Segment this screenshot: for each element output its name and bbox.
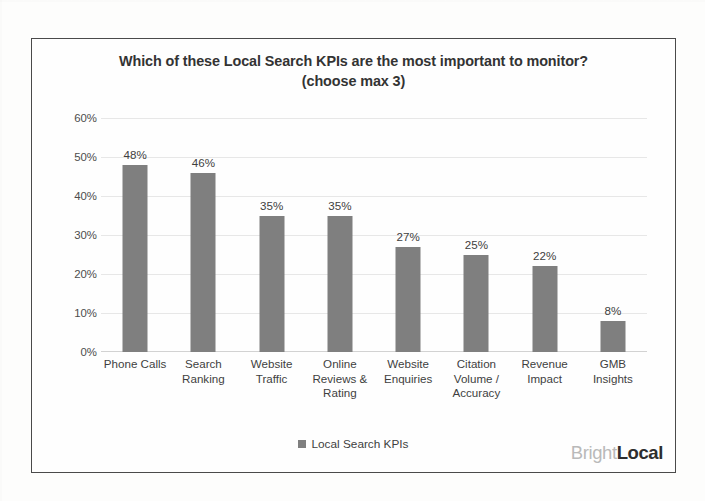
chart-title: Which of these Local Search KPIs are the… — [32, 52, 675, 71]
x-axis-category-label-line: Reviews & — [303, 372, 377, 387]
bar-value-label: 48% — [124, 148, 147, 161]
y-axis-tick-label: 40% — [74, 190, 97, 202]
x-axis-category-label: CitationVolume /Accuracy — [439, 357, 513, 401]
brand-bright-text: Bright — [571, 442, 617, 463]
bar-slot: 46% — [169, 118, 237, 352]
x-axis-category-label-line: Online — [303, 357, 377, 372]
x-axis-category-label-line: Ranking — [166, 372, 240, 387]
bar[interactable] — [191, 173, 216, 352]
x-axis-category-label-line: Citation — [439, 357, 513, 372]
bar[interactable] — [532, 266, 557, 352]
bar-slot: 35% — [238, 118, 306, 352]
x-axis-category-label: RevenueImpact — [508, 357, 582, 386]
brightlocal-logo: BrightLocal — [571, 442, 663, 464]
brand-local-text: Local — [617, 442, 663, 463]
bar[interactable] — [464, 255, 489, 353]
x-axis-category-label: WebsiteTraffic — [235, 357, 309, 386]
bar-slot: 22% — [511, 118, 579, 352]
x-axis-category-label-line: Accuracy — [439, 386, 513, 401]
bar-value-label: 22% — [533, 249, 556, 262]
x-axis-category-label-line: Revenue — [508, 357, 582, 372]
x-axis-category-label-line: Enquiries — [371, 372, 445, 387]
y-axis-tick-label: 0% — [81, 346, 97, 358]
bar-series-local-search-kpis: 48%46%35%35%27%25%22%8% — [101, 118, 647, 352]
bar-value-label: 25% — [465, 238, 488, 251]
x-axis-category-label-line: GMB — [576, 357, 650, 372]
x-axis-category-label-line: Search — [166, 357, 240, 372]
bar-slot: 27% — [374, 118, 442, 352]
legend-swatch-icon — [298, 440, 306, 448]
legend-entry-label: Local Search KPIs — [311, 437, 408, 451]
chart-subtitle: (choose max 3) — [32, 71, 675, 91]
bar-slot: 35% — [306, 118, 374, 352]
x-axis-category-label-line: Rating — [303, 386, 377, 401]
chart-title-block: Which of these Local Search KPIs are the… — [32, 52, 675, 91]
x-axis-category-label-line: Volume / — [439, 372, 513, 387]
y-axis-tick-label: 50% — [74, 151, 97, 163]
bar-slot: 8% — [579, 118, 647, 352]
bar[interactable] — [396, 247, 421, 352]
x-axis-category-label: SearchRanking — [166, 357, 240, 386]
x-axis-category-label-line: Impact — [508, 372, 582, 387]
x-axis-category-label: GMBInsights — [576, 357, 650, 386]
chart-container: Which of these Local Search KPIs are the… — [31, 38, 676, 473]
x-axis-category-label-line: Traffic — [235, 372, 309, 387]
x-axis-category-label: Phone Calls — [98, 357, 172, 372]
x-axis-category-label-line: Phone Calls — [98, 357, 172, 372]
x-axis-category-label-line: Website — [235, 357, 309, 372]
x-axis-category-label-line: Website — [371, 357, 445, 372]
x-axis-category-label-line: Insights — [576, 372, 650, 387]
bar-value-label: 27% — [397, 230, 420, 243]
bar-value-label: 35% — [328, 199, 351, 212]
y-axis-tick-labels: 0%10%20%30%40%50%60% — [61, 118, 97, 352]
bar-value-label: 46% — [192, 156, 215, 169]
x-axis-category-label: WebsiteEnquiries — [371, 357, 445, 386]
y-axis-tick-label: 30% — [74, 229, 97, 241]
x-axis-category-label: OnlineReviews &Rating — [303, 357, 377, 401]
bar-value-label: 8% — [604, 304, 621, 317]
y-axis-tick-label: 20% — [74, 268, 97, 280]
bar[interactable] — [259, 216, 284, 353]
bar[interactable] — [600, 321, 625, 352]
bar-slot: 48% — [101, 118, 169, 352]
bar-slot: 25% — [442, 118, 510, 352]
bar-value-label: 35% — [260, 199, 283, 212]
x-axis-category-labels: Phone CallsSearchRankingWebsiteTrafficOn… — [101, 357, 647, 419]
y-axis-tick-label: 10% — [74, 307, 97, 319]
bar[interactable] — [123, 165, 148, 352]
bar[interactable] — [327, 216, 352, 353]
y-axis-tick-label: 60% — [74, 112, 97, 124]
